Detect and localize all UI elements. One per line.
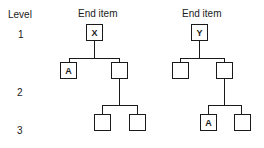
- end-item-title-x: End item: [78, 9, 117, 19]
- node-y-l2-a: [172, 62, 189, 79]
- node-y-l3-b: [234, 114, 251, 131]
- node-x-l2-a: A: [60, 62, 77, 79]
- node-y-l3-a: A: [200, 114, 217, 131]
- node-x-l3-a: [94, 114, 111, 131]
- node-y-l2-b: [216, 62, 233, 79]
- connector: [94, 41, 95, 58]
- node-x-l2-b: [111, 62, 128, 79]
- level-2-label: 2: [17, 88, 23, 98]
- connector: [180, 58, 225, 59]
- connector: [119, 79, 120, 106]
- node-x: X: [86, 24, 103, 41]
- connector: [69, 58, 120, 59]
- end-item-title-y: End item: [182, 9, 221, 19]
- connector: [102, 105, 138, 106]
- node-x-l3-b: [129, 114, 146, 131]
- connector: [199, 41, 200, 58]
- level-3-label: 3: [17, 126, 23, 136]
- connector: [224, 79, 225, 106]
- level-1-label: 1: [18, 30, 24, 40]
- node-y: Y: [191, 24, 208, 41]
- connector: [208, 105, 242, 106]
- level-header: Level: [8, 10, 32, 20]
